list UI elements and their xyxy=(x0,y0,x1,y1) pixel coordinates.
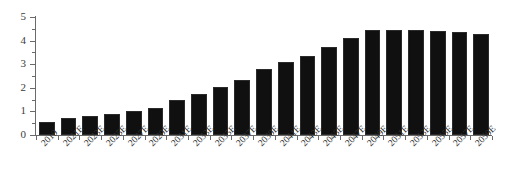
y-axis-tick-label: 0 xyxy=(0,129,26,140)
x-axis-tick xyxy=(79,136,80,140)
y-axis-tick xyxy=(30,88,35,89)
x-axis-tick xyxy=(145,136,146,140)
y-axis-tick xyxy=(30,41,35,42)
y-axis-minor-tick xyxy=(32,100,35,101)
y-axis-tick xyxy=(30,111,35,112)
x-axis-tick xyxy=(297,136,298,140)
bar xyxy=(278,62,294,135)
bar xyxy=(321,47,337,136)
bar xyxy=(386,30,402,135)
y-axis-minor-tick xyxy=(32,29,35,30)
x-axis-tick xyxy=(123,136,124,140)
x-axis-tick xyxy=(275,136,276,140)
y-axis-tick-label: 5 xyxy=(0,11,26,22)
y-axis-tick-label: 4 xyxy=(0,35,26,46)
bar xyxy=(473,34,489,135)
x-axis-tick xyxy=(383,136,384,140)
x-axis-tick xyxy=(492,136,493,140)
x-axis-tick xyxy=(166,136,167,140)
x-axis-tick xyxy=(253,136,254,140)
y-axis-minor-tick xyxy=(32,52,35,53)
x-axis-tick xyxy=(318,136,319,140)
y-axis-tick xyxy=(30,135,35,136)
x-axis-tick xyxy=(449,136,450,140)
bars-container xyxy=(36,17,492,135)
bar xyxy=(256,69,272,135)
bar xyxy=(452,32,468,135)
y-axis-minor-tick xyxy=(32,76,35,77)
x-axis-tick xyxy=(427,136,428,140)
y-axis-tick xyxy=(30,17,35,18)
y-axis-tick-label: 3 xyxy=(0,58,26,69)
x-axis-tick xyxy=(101,136,102,140)
x-axis-tick xyxy=(36,136,37,140)
bar-chart: 012345 20192021E2023E2025E2027E2029E2031… xyxy=(0,0,507,194)
x-axis-tick xyxy=(340,136,341,140)
bar xyxy=(365,30,381,135)
x-axis-tick xyxy=(210,136,211,140)
y-axis-minor-tick xyxy=(32,123,35,124)
y-axis-tick-label: 1 xyxy=(0,105,26,116)
x-axis-tick xyxy=(470,136,471,140)
bar xyxy=(408,30,424,135)
bar xyxy=(430,31,446,135)
bar xyxy=(300,56,316,135)
x-axis-tick xyxy=(188,136,189,140)
y-axis-tick xyxy=(30,64,35,65)
x-axis-tick xyxy=(58,136,59,140)
x-axis-tick xyxy=(362,136,363,140)
x-axis-tick xyxy=(231,136,232,140)
bar xyxy=(343,38,359,135)
y-axis-tick-label: 2 xyxy=(0,82,26,93)
x-axis-tick xyxy=(405,136,406,140)
